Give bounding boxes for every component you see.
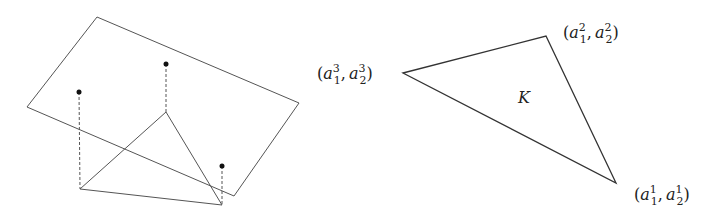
dashed-lift-1	[79, 92, 80, 189]
vertex-label-2: (a21,a22)	[563, 21, 619, 46]
right-panel: K (a31,a32) (a21,a22) (a11,a12)	[317, 21, 690, 208]
region-label-k: K	[517, 88, 531, 107]
lifted-point-3	[220, 164, 225, 169]
plane	[27, 17, 299, 196]
vertex-label-3: (a31,a32)	[317, 62, 373, 87]
vertex-label-1: (a11,a12)	[634, 183, 690, 208]
diagram-canvas: K (a31,a32) (a21,a22) (a11,a12)	[0, 0, 728, 219]
element-triangle-k	[403, 36, 616, 183]
lifted-point-2	[164, 62, 169, 67]
base-triangle	[80, 112, 222, 205]
left-panel	[27, 17, 299, 205]
lifted-point-1	[77, 90, 82, 95]
